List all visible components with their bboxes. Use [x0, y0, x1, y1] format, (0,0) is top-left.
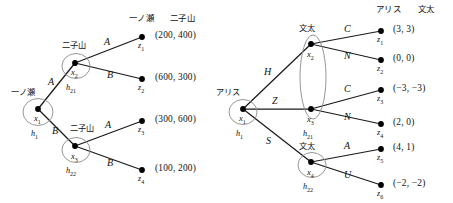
- left-node-x3: [72, 143, 78, 149]
- right-node-x4-name-sub: 4: [311, 173, 314, 179]
- left-terminal-z2-sub: 2: [141, 88, 144, 94]
- right-terminal-z4: [378, 121, 384, 127]
- right-payoff-z4: (2, 0): [393, 118, 415, 127]
- left-terminal-z1-sub: 1: [141, 46, 144, 52]
- right-terminal-z4-name: z4: [377, 129, 383, 139]
- left-header-player2: 二子山: [170, 14, 195, 22]
- left-action-x2-z2: B: [107, 70, 113, 80]
- left-hset-h22-sub: 22: [70, 171, 76, 177]
- left-node-x3-name-sub: 3: [75, 157, 78, 163]
- left-payoff-z4: (100, 200): [155, 164, 196, 173]
- left-node-x1: [35, 106, 41, 112]
- right-action-x4-z6: U: [344, 170, 351, 180]
- left-header-player1: 一ノ瀬: [129, 14, 154, 22]
- left-terminal-z4-name: z4: [138, 175, 144, 185]
- right-header-player2: 文太: [418, 5, 435, 13]
- right-node-x1-player: アリス: [216, 88, 241, 96]
- right-node-x1-name: x1: [239, 114, 246, 125]
- right-node-x2-player: 文太: [299, 24, 315, 32]
- right-node-x4: [308, 159, 314, 165]
- right-terminal-z1-sub: 1: [380, 40, 383, 46]
- right-action-x1-x4: S: [266, 136, 271, 146]
- right-hset-h22-label: h22: [303, 183, 313, 193]
- right-terminal-z5: [378, 146, 384, 152]
- left-action-x1-x2: A: [48, 77, 54, 87]
- right-hset-h21-sub: 21: [307, 134, 313, 140]
- right-infoset-h21: [300, 35, 326, 119]
- left-node-x2-name: x2: [71, 68, 78, 79]
- right-terminal-z3: [378, 87, 384, 93]
- right-hset-h22-sub: 22: [307, 187, 313, 193]
- left-terminal-z4: [139, 167, 145, 173]
- right-terminal-z5-sub: 5: [380, 158, 383, 164]
- right-action-x3-z4: N: [344, 112, 351, 122]
- right-payoff-z2: (0, 0): [393, 54, 415, 63]
- left-tree-terminal-nodes: [139, 34, 145, 173]
- right-terminal-z5-name: z5: [377, 154, 383, 164]
- right-action-x1-x3: Z: [272, 96, 278, 106]
- right-action-x4-z5: A: [344, 141, 350, 151]
- left-node-x1-name: x1: [34, 114, 41, 125]
- right-terminal-z1-name: z1: [377, 36, 383, 46]
- right-terminal-z4-sub: 4: [380, 133, 383, 139]
- right-payoff-z6: (−2, −2): [393, 179, 425, 188]
- left-node-x2-name-sub: 2: [75, 73, 78, 79]
- right-node-x1-name-sub: 1: [243, 119, 246, 125]
- right-action-x2-z2: N: [344, 51, 351, 61]
- right-hset-h21-label: h21: [303, 130, 313, 140]
- left-terminal-z3: [139, 118, 145, 124]
- left-hset-h22-label: h22: [66, 167, 76, 177]
- right-payoff-z3: (−3, −3): [393, 84, 425, 93]
- right-payoff-z5: (4, 1): [393, 143, 415, 152]
- left-payoff-z1: (200, 400): [155, 31, 196, 40]
- right-node-x2-name-sub: 2: [311, 55, 314, 61]
- right-node-x3-name: x3: [307, 115, 314, 126]
- left-action-x3-z3: A: [105, 120, 111, 130]
- left-terminal-z2-name: z2: [138, 84, 144, 94]
- figure-canvas: 一ノ瀬 二子山 一ノ瀬 二子山 二子山 x1 x2 x3 h1 h21 h22 …: [0, 0, 453, 203]
- left-node-x3-player: 二子山: [70, 124, 95, 132]
- left-terminal-z1: [139, 34, 145, 40]
- right-tree-terminal-nodes: [378, 28, 384, 188]
- left-terminal-z3-sub: 3: [141, 130, 144, 136]
- right-hset-h1-sub: 1: [240, 134, 243, 140]
- right-payoff-z1: (3, 3): [393, 25, 415, 34]
- left-tree-infosets: [23, 54, 90, 163]
- left-action-x2-z1: A: [104, 37, 110, 47]
- right-node-x1: [240, 106, 246, 112]
- left-action-x3-z4: B: [107, 158, 113, 168]
- left-payoff-z3: (300, 600): [155, 115, 196, 124]
- left-terminal-z3-name: z3: [138, 126, 144, 136]
- left-terminal-z2: [139, 76, 145, 82]
- left-node-x3-name: x3: [71, 152, 78, 163]
- right-node-x4-player: 文太: [299, 142, 315, 150]
- right-terminal-z6-sub: 6: [380, 194, 383, 200]
- right-terminal-z3-name: z3: [377, 95, 383, 105]
- right-node-x2: [308, 41, 314, 47]
- right-terminal-z6: [378, 182, 384, 188]
- left-node-x1-name-sub: 1: [38, 119, 41, 125]
- right-action-x1-x2: H: [264, 67, 271, 77]
- left-hset-h21-sub: 21: [70, 88, 76, 94]
- left-hset-h1-label: h1: [31, 130, 38, 140]
- left-hset-h21-label: h21: [66, 84, 76, 94]
- right-node-x3: [308, 106, 314, 112]
- right-header-player1: アリス: [376, 5, 401, 13]
- right-terminal-z2-sub: 2: [380, 69, 383, 75]
- right-edge-x1-x4: [243, 109, 311, 162]
- right-node-x2-name: x2: [307, 50, 314, 61]
- right-node-x4-name: x4: [307, 168, 314, 179]
- left-hset-h1-sub: 1: [35, 134, 38, 140]
- right-terminal-z2-name: z2: [377, 65, 383, 75]
- left-action-x1-x3: B: [52, 126, 58, 136]
- right-action-x3-z3: C: [344, 84, 351, 94]
- left-payoff-z2: (600, 300): [155, 73, 196, 82]
- right-hset-h1-label: h1: [236, 130, 243, 140]
- right-terminal-z3-sub: 3: [380, 99, 383, 105]
- right-action-x2-z1: C: [344, 24, 351, 34]
- left-node-x2-player: 二子山: [62, 41, 87, 49]
- right-terminal-z2: [378, 57, 384, 63]
- left-terminal-z1-name: z1: [138, 42, 144, 52]
- left-node-x2: [72, 60, 78, 66]
- left-terminal-z4-sub: 4: [141, 179, 144, 185]
